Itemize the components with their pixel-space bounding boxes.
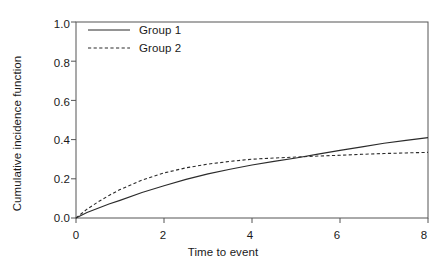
series-line-group-2 <box>76 152 428 218</box>
x-axis-ticks <box>76 218 428 223</box>
data-series-group <box>76 138 428 218</box>
plot-canvas <box>0 0 446 267</box>
plot-box-border <box>76 22 428 218</box>
series-line-group-1 <box>76 138 428 218</box>
plot-frame <box>76 22 428 218</box>
legend-group <box>88 30 130 48</box>
y-axis-ticks <box>71 22 76 218</box>
chart-figure: Cumulative incidence function Time to ev… <box>0 0 446 267</box>
